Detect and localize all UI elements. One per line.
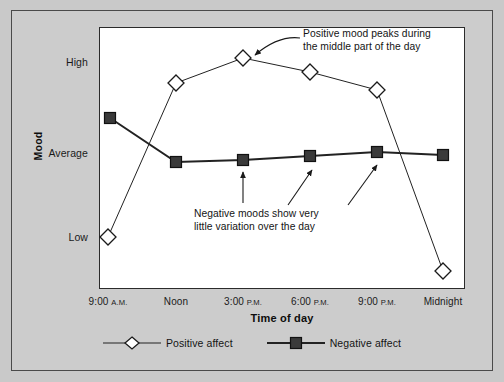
plot-area [99, 27, 465, 289]
chart-legend: Positive affect Negative affect [11, 336, 493, 350]
legend-label-negative-affect: Negative affect [330, 337, 401, 349]
annotation-positive-peak: Positive mood peaks during the middle pa… [303, 27, 463, 53]
x-tick-1-main: Noon [164, 296, 188, 307]
y-tick-label-low: Low [26, 231, 88, 243]
y-axis-title: Mood [32, 106, 44, 186]
legend-entry-negative-affect: Negative affect [267, 336, 401, 350]
annotation-negative-flat: Negative moods show very little variatio… [194, 207, 364, 233]
x-tick-5-main: Midnight [424, 296, 463, 307]
legend-marker-filled-square-icon [267, 336, 325, 350]
x-tick-label-5: Midnight [393, 296, 493, 307]
x-tick-0-suffix: A.M. [111, 298, 127, 307]
mood-line-chart-figure: Mood High Average Low 9:00 A.M. Noon 3:0… [0, 0, 504, 382]
y-tick-label-average: Average [26, 147, 88, 159]
legend-entry-positive-affect: Positive affect [103, 336, 233, 350]
x-axis-title: Time of day [99, 312, 465, 324]
x-tick-0-main: 9:00 [89, 296, 112, 307]
legend-label-positive-affect: Positive affect [166, 337, 233, 349]
x-tick-4-main: 9:00 [358, 296, 381, 307]
x-tick-3-main: 6:00 [291, 296, 314, 307]
x-tick-2-main: 3:00 [224, 296, 247, 307]
y-tick-label-high: High [26, 56, 88, 68]
legend-marker-open-diamond-icon [103, 336, 161, 350]
